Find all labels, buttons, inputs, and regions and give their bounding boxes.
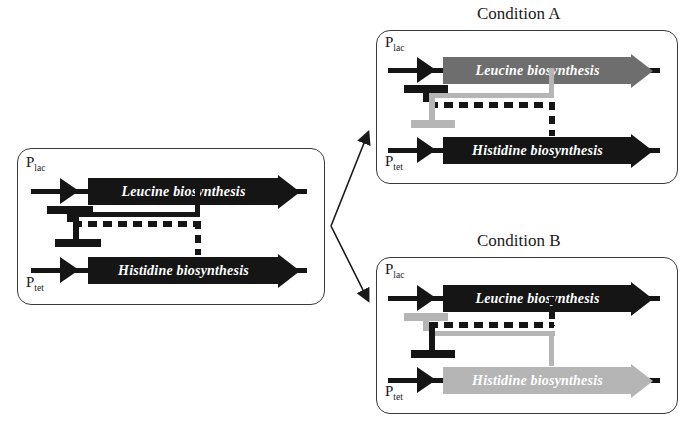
promoter-arrow-tet: [417, 137, 436, 163]
gene-arrow-leucine: Leucine biosynthesis: [88, 178, 300, 205]
gene-label-histidine: Histidine biosynthesis: [443, 137, 632, 164]
promoter-arrow-lac: [60, 178, 79, 204]
promoter-label-tet: Ptet: [385, 384, 403, 403]
panel-base: Plac Leucine biosynthesis Histidine bios…: [17, 148, 325, 305]
promoter-arrow-tet: [60, 257, 79, 283]
promoter-arrow-lac: [417, 57, 436, 83]
gene-label-histidine: Histidine biosynthesis: [88, 257, 279, 284]
gene-label-histidine: Histidine biosynthesis: [443, 367, 632, 394]
repressor-link-solid-riser: [549, 331, 554, 366]
repressor-bar-lower: [55, 239, 101, 247]
repressor-bar-lower: [411, 350, 455, 358]
condition-a-title: Condition A: [477, 4, 561, 24]
branch-arrow-to-condition-a: [331, 133, 368, 226]
repressor-link-dashed: [429, 322, 554, 328]
branch-arrow-to-condition-b: [331, 226, 368, 300]
repressor-link-dashed: [73, 221, 201, 227]
gene-arrow-histidine: Histidine biosynthesis: [443, 137, 653, 164]
gene-head: [278, 254, 300, 288]
repressor-link-dashed-riser: [195, 221, 201, 255]
promoter-label-lac: Plac: [385, 35, 404, 54]
gene-head: [631, 282, 653, 316]
repressor-link-solid: [73, 212, 200, 217]
promoter-arrow-lac: [417, 285, 436, 311]
repressor-link-solid: [429, 93, 554, 98]
gene-arrow-histidine: Histidine biosynthesis: [443, 367, 653, 394]
promoter-label-lac: Plac: [26, 155, 45, 174]
repressor-link-dashed-riser: [549, 102, 555, 136]
promoter-label-tet: Ptet: [26, 275, 44, 294]
promoter-label-lac: Plac: [385, 262, 404, 281]
gene-arrow-leucine: Leucine biosynthesis: [443, 285, 653, 312]
gene-head: [631, 134, 653, 168]
repressor-link-dashed: [429, 102, 555, 108]
gene-arrow-histidine: Histidine biosynthesis: [88, 257, 300, 284]
gene-label-leucine: Leucine biosynthesis: [443, 57, 632, 84]
panel-condition-b: Plac Leucine biosynthesis Histidine bios…: [376, 257, 678, 414]
gene-arrow-leucine: Leucine biosynthesis: [443, 57, 653, 84]
gene-head: [631, 54, 653, 88]
gene-label-leucine: Leucine biosynthesis: [443, 285, 632, 312]
repressor-link-solid: [429, 331, 555, 336]
gene-label-leucine: Leucine biosynthesis: [88, 178, 279, 205]
promoter-arrow-tet: [417, 367, 436, 393]
condition-b-title: Condition B: [477, 231, 561, 251]
gene-head: [278, 175, 300, 209]
promoter-label-tet: Ptet: [385, 154, 403, 173]
repressor-bar-lower: [411, 120, 455, 128]
gene-head: [631, 364, 653, 398]
repressor-link-solid-riser: [549, 68, 554, 96]
panel-condition-a: Plac Leucine biosynthesis Histidine bios…: [376, 30, 678, 184]
